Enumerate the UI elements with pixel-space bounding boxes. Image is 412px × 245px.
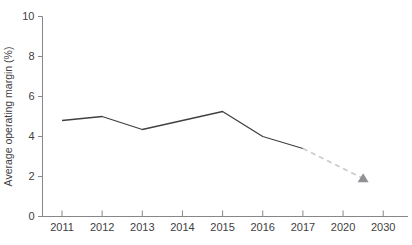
x-tick-label: 2015 xyxy=(210,221,234,233)
x-tick-label: 2013 xyxy=(130,221,154,233)
x-tick-label: 2016 xyxy=(251,221,275,233)
y-axis-title: Average operating margin (%) xyxy=(2,47,14,187)
x-tick-label: 2017 xyxy=(291,221,315,233)
x-tick-label: 2030 xyxy=(371,221,395,233)
x-tick-label: 2020 xyxy=(331,221,355,233)
chart-svg: 0246810201120122013201420152016201720202… xyxy=(0,0,412,245)
series-line-actual xyxy=(62,112,303,149)
x-tick-label: 2011 xyxy=(50,221,74,233)
y-tick-label: 6 xyxy=(28,90,34,102)
x-tick-label: 2012 xyxy=(90,221,114,233)
y-tick-label: 0 xyxy=(28,210,34,222)
y-tick-label: 4 xyxy=(28,130,34,142)
operating-margin-chart: 0246810201120122013201420152016201720202… xyxy=(0,0,412,245)
x-tick-label: 2014 xyxy=(170,221,194,233)
forecast-endpoint-triangle xyxy=(358,173,369,182)
y-tick-label: 8 xyxy=(28,50,34,62)
y-tick-label: 10 xyxy=(22,10,34,22)
series-line-forecast xyxy=(303,149,363,179)
y-tick-label: 2 xyxy=(28,170,34,182)
